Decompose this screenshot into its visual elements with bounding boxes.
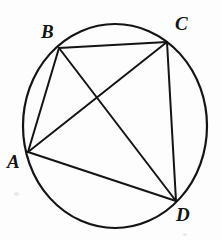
scan-speck — [183, 233, 187, 236]
vertex-label-d: D — [176, 205, 190, 224]
geometry-figure: A B C D — [0, 0, 221, 240]
chord-ad — [28, 152, 176, 201]
circumcircle — [23, 24, 207, 228]
diagonal-bd — [59, 48, 176, 201]
vertex-label-b: B — [41, 22, 54, 41]
vertex-label-c: C — [175, 14, 188, 33]
scan-speck — [14, 192, 19, 196]
vertex-label-a: A — [7, 152, 20, 171]
chord-bc — [59, 42, 167, 48]
chord-cd — [167, 42, 176, 201]
